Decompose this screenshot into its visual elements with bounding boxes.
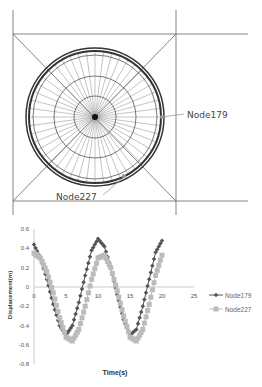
y-axis-title: Displacement(m): [7, 271, 13, 319]
y-tick-label: 0.2: [21, 265, 30, 271]
node179-label: Node179: [187, 110, 228, 120]
y-tick-label: -0.6: [19, 342, 30, 348]
y-tick-label: 0: [26, 284, 30, 290]
node227-label: Node227: [56, 192, 97, 202]
y-tick-label: -0.4: [19, 323, 30, 329]
x-tick-label: 0: [32, 293, 36, 299]
y-tick-label: 0.6: [21, 226, 30, 232]
x-tick-label: 20: [159, 293, 166, 299]
y-tick-label: -0.8: [19, 361, 30, 367]
y-tick-label: 0.4: [21, 245, 30, 251]
legend-item-node227: Node227: [209, 306, 252, 313]
mesh-diagram: Node179 Node227: [0, 0, 262, 215]
x-tick-label: 15: [127, 293, 134, 299]
x-axis-title: Time(s): [103, 369, 128, 377]
y-tick-label: -0.2: [19, 303, 30, 309]
x-tick-label: 10: [95, 293, 102, 299]
svg-text:Node227: Node227: [225, 306, 252, 313]
legend-item-node179: Node179: [209, 292, 252, 299]
x-tick-label: 5: [64, 293, 68, 299]
displacement-chart: 0.60.40.20-0.2-0.4-0.6-0.80510152025 Nod…: [0, 215, 262, 387]
x-tick-label: 25: [191, 293, 198, 299]
svg-text:Node179: Node179: [225, 292, 252, 299]
